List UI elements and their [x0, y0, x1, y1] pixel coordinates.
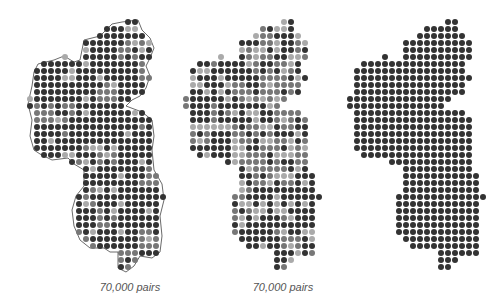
map-dot — [139, 159, 145, 165]
map-dot — [125, 61, 131, 67]
map-dot — [309, 243, 315, 249]
map-dot — [41, 89, 47, 95]
map-dot — [97, 222, 103, 228]
map-dot — [90, 131, 96, 137]
map-dot — [438, 208, 444, 214]
map-dot — [253, 180, 259, 186]
map-dot — [354, 82, 360, 88]
map-dot — [382, 68, 388, 74]
map-dot — [118, 47, 124, 53]
map-dot — [417, 54, 423, 60]
map-dot — [424, 201, 430, 207]
map-dot — [417, 131, 423, 137]
map-dot — [410, 89, 416, 95]
map-dot — [190, 138, 196, 144]
map-dot — [288, 152, 294, 158]
map-dot — [183, 103, 189, 109]
map-dot — [410, 229, 416, 235]
map-dot — [125, 208, 131, 214]
map-dot — [197, 103, 203, 109]
map-dot — [410, 124, 416, 130]
map-dot — [260, 145, 266, 151]
map-dot — [253, 89, 259, 95]
map-dot — [225, 103, 231, 109]
map-dot — [368, 61, 374, 67]
map-dot — [253, 215, 259, 221]
map-dot — [69, 89, 75, 95]
map-dot — [375, 138, 381, 144]
map-dot — [361, 61, 367, 67]
map-dot — [111, 68, 117, 74]
map-dot — [211, 75, 217, 81]
map-dot — [153, 243, 159, 249]
map-dot — [410, 152, 416, 158]
map-dot — [76, 96, 82, 102]
map-dot — [125, 229, 131, 235]
map-dot — [354, 96, 360, 102]
map-dot — [281, 257, 287, 263]
map-dot — [417, 215, 423, 221]
map-dot — [132, 110, 138, 116]
map-dot — [375, 117, 381, 123]
map-dot — [403, 145, 409, 151]
map-dot — [302, 159, 308, 165]
map-dot — [309, 222, 315, 228]
map-dot — [267, 236, 273, 242]
map-dot — [34, 96, 40, 102]
map-dot — [239, 131, 245, 137]
map-dot — [267, 40, 273, 46]
map-dot — [97, 117, 103, 123]
map-dot — [403, 180, 409, 186]
map-dot — [83, 47, 89, 53]
map-dot — [104, 187, 110, 193]
map-dot — [125, 180, 131, 186]
map-dot — [62, 103, 68, 109]
map-dot — [253, 40, 259, 46]
map-dot — [139, 208, 145, 214]
map-dot — [295, 117, 301, 123]
map-dot — [125, 264, 131, 270]
map-dot — [445, 117, 451, 123]
map-dot — [424, 152, 430, 158]
map-dot — [90, 187, 96, 193]
map-dot — [431, 68, 437, 74]
map-dot — [459, 82, 465, 88]
map-dot — [97, 124, 103, 130]
map-dot — [452, 68, 458, 74]
map-dot — [309, 208, 315, 214]
map-dot — [431, 145, 437, 151]
map-dot — [302, 145, 308, 151]
map-dot — [104, 229, 110, 235]
map-dot — [253, 159, 259, 165]
map-dot — [368, 89, 374, 95]
map-dot — [295, 180, 301, 186]
map-dot — [438, 173, 444, 179]
map-dot — [403, 61, 409, 67]
map-dot — [281, 131, 287, 137]
map-dot — [288, 61, 294, 67]
map-dot — [382, 82, 388, 88]
map-dot — [417, 89, 423, 95]
map-dot — [97, 89, 103, 95]
map-dot — [438, 194, 444, 200]
map-dot — [375, 131, 381, 137]
map-dot — [197, 145, 203, 151]
map-dot — [83, 131, 89, 137]
map-dot — [459, 187, 465, 193]
map-dot — [288, 145, 294, 151]
map-dot — [83, 61, 89, 67]
map-dot — [125, 54, 131, 60]
map-dot — [260, 26, 266, 32]
map-dot — [295, 68, 301, 74]
map-dot — [417, 117, 423, 123]
map-dot — [424, 68, 430, 74]
map-dot — [274, 201, 280, 207]
map-dot — [69, 75, 75, 81]
map-dot — [146, 138, 152, 144]
map-dot — [204, 82, 210, 88]
map-dot — [466, 180, 472, 186]
map-dot — [309, 215, 315, 221]
map-dot — [438, 264, 444, 270]
map-dot — [132, 54, 138, 60]
map-dot — [225, 75, 231, 81]
